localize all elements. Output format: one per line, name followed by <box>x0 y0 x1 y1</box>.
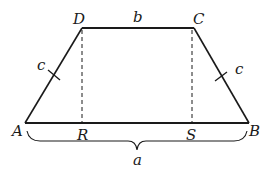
brace-label-a: a <box>133 151 142 169</box>
diagram-canvas: D C A B R S b c c a <box>0 0 276 171</box>
side-ad <box>25 28 82 123</box>
tick-mark-left <box>48 70 60 80</box>
vertex-label-d: D <box>72 10 85 28</box>
foot-label-r: R <box>76 126 88 144</box>
trapezoid-diagram: D C A B R S b c c a <box>0 0 276 171</box>
vertex-label-c: C <box>193 10 205 28</box>
foot-label-s: S <box>186 126 196 144</box>
side-label-c-right: c <box>235 60 244 78</box>
vertex-label-b: B <box>248 122 260 140</box>
side-label-b: b <box>133 8 143 26</box>
side-label-c-left: c <box>37 56 46 74</box>
vertex-label-a: A <box>10 122 23 140</box>
brace-a <box>27 131 247 150</box>
